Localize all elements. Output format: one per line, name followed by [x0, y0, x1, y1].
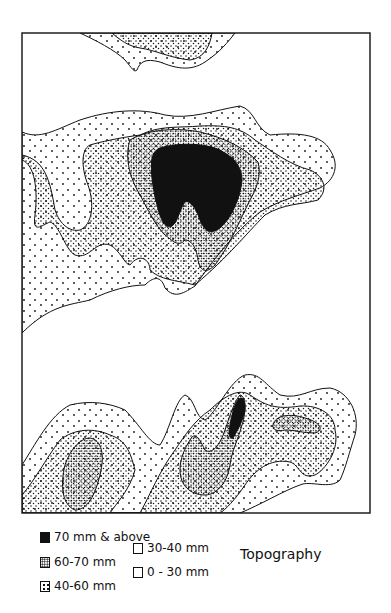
legend-label: 0 - 30 mm	[147, 565, 209, 579]
solid-black-swatch-icon	[40, 532, 50, 543]
blank-swatch-icon	[133, 567, 143, 578]
legend-item-0-30: 0 - 30 mm	[133, 565, 209, 579]
legend-item-30-40: 30-40 mm	[133, 541, 209, 555]
legend-label: 30-40 mm	[147, 541, 209, 555]
dense-stipple-swatch-icon	[40, 557, 50, 568]
rainfall-isohyet-map	[0, 0, 391, 613]
legend-label: 40-60 mm	[54, 579, 116, 593]
legend-label: 60-70 mm	[54, 555, 116, 569]
sparse-dot-swatch-icon	[133, 543, 143, 554]
medium-stipple-swatch-icon	[40, 581, 50, 592]
contour-layers	[22, 33, 356, 513]
map-title: Topography	[240, 546, 321, 562]
legend-item-60-70: 60-70 mm	[40, 555, 116, 569]
legend-item-40-60: 40-60 mm	[40, 579, 116, 593]
